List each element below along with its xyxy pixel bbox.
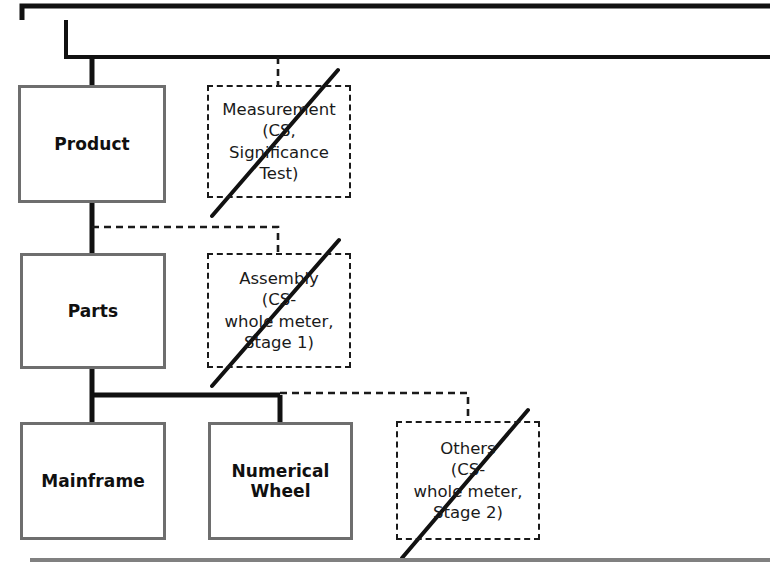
- ghost-measurement-line2: (CS,: [262, 121, 296, 140]
- node-parts[interactable]: Parts: [20, 253, 166, 369]
- ghost-others-line3: whole meter,: [414, 482, 523, 501]
- ghost-measurement-line3: Significance: [229, 143, 329, 162]
- ghost-assembly-line2: (CS-: [262, 290, 296, 309]
- node-numerical-wheel-label: Numerical Wheel: [227, 461, 333, 501]
- ghost-others-line4: Stage 2): [433, 503, 503, 522]
- node-product-label: Product: [50, 134, 134, 154]
- node-numerical-wheel[interactable]: Numerical Wheel: [208, 422, 353, 540]
- ghost-node-measurement-label: Measurement (CS, Significance Test): [219, 99, 338, 183]
- ghost-node-others-label: Others (CS- whole meter, Stage 2): [411, 438, 526, 522]
- ghost-others-line2: (CS-: [451, 460, 485, 479]
- ghost-assembly-line4: Stage 1): [244, 333, 314, 352]
- node-product[interactable]: Product: [18, 85, 166, 203]
- node-numerical-wheel-label-line1: Numerical: [231, 461, 329, 481]
- ghost-node-others[interactable]: Others (CS- whole meter, Stage 2): [396, 421, 540, 540]
- ghost-measurement-line1: Measurement: [222, 100, 335, 119]
- ghost-assembly-line1: Assembly: [239, 269, 319, 288]
- ghost-node-assembly[interactable]: Assembly (CS- whole meter, Stage 1): [207, 253, 351, 368]
- connector-parts-to-children: [90, 369, 280, 422]
- connector-bus-to-others: [280, 393, 468, 421]
- ghost-node-assembly-label: Assembly (CS- whole meter, Stage 1): [222, 268, 337, 352]
- node-mainframe[interactable]: Mainframe: [20, 422, 166, 540]
- node-mainframe-label: Mainframe: [37, 471, 149, 491]
- node-numerical-wheel-label-line2: Wheel: [250, 481, 310, 501]
- diagram-canvas: Product Parts Mainframe Numerical Wheel …: [0, 0, 770, 569]
- ghost-assembly-line3: whole meter,: [225, 312, 334, 331]
- connector-level1-bus: [64, 20, 770, 57]
- ghost-node-measurement[interactable]: Measurement (CS, Significance Test): [207, 85, 351, 198]
- ghost-others-line1: Others: [440, 439, 495, 458]
- node-parts-label: Parts: [64, 301, 123, 321]
- top-rule: [22, 6, 770, 20]
- ghost-measurement-line4: Test): [260, 164, 299, 183]
- connector-spine-to-assembly: [92, 227, 278, 253]
